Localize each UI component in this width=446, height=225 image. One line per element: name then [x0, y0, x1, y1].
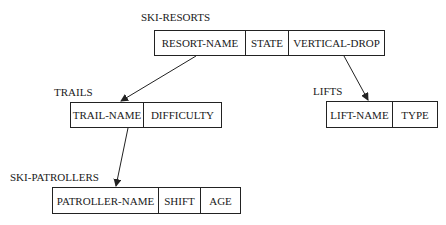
record-label-ski-resorts: SKI-RESORTS — [141, 11, 210, 23]
field-type: TYPE — [393, 102, 437, 127]
arrow-resorts-to-lifts — [344, 56, 368, 100]
field-shift: SHIFT — [159, 188, 201, 213]
record-ski-patrollers: PATROLLER-NAME SHIFT AGE — [52, 187, 241, 214]
field-vertical-drop: VERTICAL-DROP — [289, 31, 384, 55]
field-difficulty: DIFFICULTY — [144, 103, 221, 127]
field-state: STATE — [246, 31, 289, 55]
field-trail-name: TRAIL-NAME — [71, 103, 144, 127]
record-label-lifts: LIFTS — [313, 85, 342, 97]
record-ski-resorts: RESORT-NAME STATE VERTICAL-DROP — [154, 30, 385, 56]
record-label-trails: TRAILS — [54, 86, 93, 98]
arrow-resorts-to-trails — [121, 56, 196, 101]
record-trails: TRAIL-NAME DIFFICULTY — [70, 102, 222, 128]
field-lift-name: LIFT-NAME — [327, 102, 393, 127]
record-label-ski-patrollers: SKI-PATROLLERS — [10, 171, 99, 183]
field-age: AGE — [201, 188, 240, 213]
arrow-trails-to-patrollers — [116, 128, 128, 186]
field-patroller-name: PATROLLER-NAME — [53, 188, 159, 213]
record-lifts: LIFT-NAME TYPE — [326, 101, 438, 128]
field-resort-name: RESORT-NAME — [155, 31, 246, 55]
